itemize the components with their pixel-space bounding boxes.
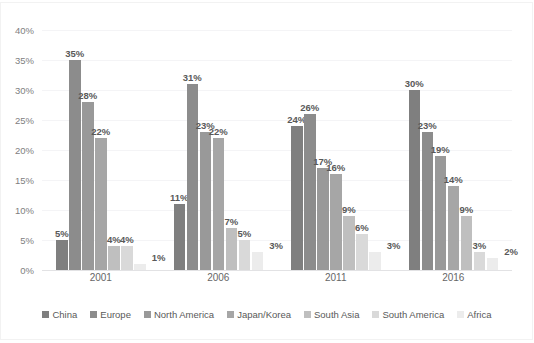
legend-swatch-icon [227,311,234,318]
legend-label: Europe [100,309,131,320]
bar-slot: 26% [304,30,316,270]
bar-slot: 9% [343,30,355,270]
bar-south-asia-2006[interactable] [226,228,238,270]
bar-group-2006: 11%31%23%22%7%5%3% [160,30,278,270]
bar-slot: 16% [330,30,342,270]
y-axis-tick-label: 20% [15,145,34,156]
legend-swatch-icon [42,311,49,318]
bar-slot: 19% [435,30,447,270]
bar-value-label: 4% [107,234,121,245]
x-axis-tick-label: 2016 [442,272,464,283]
bar-group-2011: 24%26%17%16%9%6%3% [277,30,395,270]
bar-slot: 3% [369,30,381,270]
bar-europe-2006[interactable] [187,84,199,270]
bar-slot: 5% [56,30,68,270]
legend-swatch-icon [457,311,464,318]
bar-slot: 3% [474,30,486,270]
y-axis-tick-label: 10% [15,205,34,216]
legend-label: Japan/Korea [237,309,291,320]
x-axis-tick-label: 2006 [207,272,229,283]
bar-japan-korea-2001[interactable] [95,138,107,270]
bar-south-america-2011[interactable] [356,234,368,270]
y-axis: 0%5%10%15%20%25%30%35%40% [0,30,38,270]
legend-item-north-america[interactable]: North America [144,309,214,320]
bar-slot: 3% [252,30,264,270]
legend-item-south-america[interactable]: South America [372,309,444,320]
bar-china-2016[interactable] [409,90,421,270]
bar-value-label: 9% [459,204,473,215]
bar-slot: 28% [82,30,94,270]
legend-item-europe[interactable]: Europe [90,309,131,320]
bar-japan-korea-2006[interactable] [213,138,225,270]
legend-item-china[interactable]: China [42,309,77,320]
bar-slot: 24% [291,30,303,270]
legend-item-japan-korea[interactable]: Japan/Korea [227,309,291,320]
bar-japan-korea-2016[interactable] [448,186,460,270]
chart-legend: ChinaEuropeNorth AmericaJapan/KoreaSouth… [0,305,534,323]
bar-africa-2001[interactable] [134,264,146,270]
bar-africa-2016[interactable] [487,258,499,270]
bar-slot: 7% [226,30,238,270]
bar-south-asia-2016[interactable] [461,216,473,270]
bar-africa-2011[interactable] [369,252,381,270]
bar-south-america-2016[interactable] [474,252,486,270]
bar-value-label: 6% [355,222,369,233]
bar-china-2006[interactable] [174,204,186,270]
bar-slot: 6% [356,30,368,270]
legend-label: Africa [467,309,491,320]
bar-value-label: 4% [120,234,134,245]
legend-label: South America [382,309,444,320]
legend-swatch-icon [90,311,97,318]
bar-slot: 4% [121,30,133,270]
bar-slot: 35% [69,30,81,270]
x-axis: 2001200620112016 [42,272,512,290]
bar-slot: 22% [213,30,225,270]
bar-north-america-2006[interactable] [200,132,212,270]
x-axis-tick-label: 2011 [325,272,347,283]
y-axis-tick-label: 0% [20,265,34,276]
legend-swatch-icon [372,311,379,318]
bar-slot: 22% [95,30,107,270]
y-axis-tick-label: 30% [15,85,34,96]
bar-slot: 31% [187,30,199,270]
bar-south-america-2001[interactable] [121,246,133,270]
x-axis-tick-label: 2001 [90,272,112,283]
y-axis-tick-label: 25% [15,115,34,126]
bar-chart: 0%5%10%15%20%25%30%35%40% 5%35%28%22%4%4… [0,0,534,343]
bar-slot: 17% [317,30,329,270]
bar-slot: 4% [108,30,120,270]
bar-group-2001: 5%35%28%22%4%4%1% [42,30,160,270]
bar-north-america-2011[interactable] [317,168,329,270]
bar-slot: 5% [239,30,251,270]
bar-slot: 30% [409,30,421,270]
bar-africa-2006[interactable] [252,252,264,270]
legend-swatch-icon [304,311,311,318]
bar-value-label: 3% [472,240,486,251]
bar-china-2011[interactable] [291,126,303,270]
bar-value-label: 9% [342,204,356,215]
y-axis-tick-label: 40% [15,25,34,36]
y-axis-tick-label: 35% [15,55,34,66]
bar-south-asia-2011[interactable] [343,216,355,270]
y-axis-tick-label: 15% [15,175,34,186]
legend-label: North America [154,309,214,320]
bar-slot: 14% [448,30,460,270]
bar-value-label: 2% [504,246,518,257]
gridline [42,270,512,271]
plot-area: 5%35%28%22%4%4%1%11%31%23%22%7%5%3%24%26… [42,30,512,270]
bar-slot: 2% [487,30,499,270]
bar-europe-2011[interactable] [304,114,316,270]
chart-title [10,0,520,8]
bar-value-label: 7% [224,216,238,227]
bar-japan-korea-2011[interactable] [330,174,342,270]
y-axis-tick-label: 5% [20,235,34,246]
legend-item-africa[interactable]: Africa [457,309,491,320]
bar-slot: 9% [461,30,473,270]
bar-south-asia-2001[interactable] [108,246,120,270]
bar-china-2001[interactable] [56,240,68,270]
legend-item-south-asia[interactable]: South Asia [304,309,359,320]
bar-value-label: 5% [55,228,69,239]
bar-south-america-2006[interactable] [239,240,251,270]
bar-group-2016: 30%23%19%14%9%3%2% [395,30,513,270]
bar-slot: 23% [200,30,212,270]
